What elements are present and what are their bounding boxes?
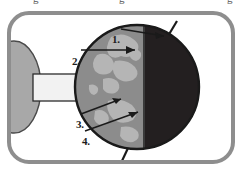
caption-glyph-stub-middle: g (119, 0, 125, 4)
callout-label-3: 3. (76, 119, 84, 130)
figure-stage: 1. 2. 3. 4. (11, 15, 231, 160)
day-night-terminator (143, 21, 145, 155)
earth-sphere (71, 21, 199, 155)
callout-label-2: 2. (72, 56, 80, 67)
callout-label-1: 1. (112, 34, 120, 45)
clipped-caption-strip: g g g (0, 0, 242, 9)
earth-sun-diagram (11, 15, 231, 160)
callout-label-4: 4. (82, 136, 90, 147)
figure-frame: 1. 2. 3. 4. (7, 11, 235, 164)
caption-glyph-stub-right: g (227, 0, 233, 4)
caption-glyph-stub-left: g (33, 0, 39, 4)
